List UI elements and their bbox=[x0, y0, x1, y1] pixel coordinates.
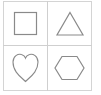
hexagon-icon bbox=[48, 46, 91, 90]
cell-heart[interactable] bbox=[4, 46, 47, 90]
cell-triangle[interactable] bbox=[48, 2, 91, 45]
square-icon bbox=[4, 2, 47, 45]
triangle-icon bbox=[48, 2, 91, 45]
cell-square[interactable] bbox=[4, 2, 47, 45]
cell-hexagon[interactable] bbox=[48, 46, 91, 90]
heart-icon bbox=[4, 46, 47, 90]
